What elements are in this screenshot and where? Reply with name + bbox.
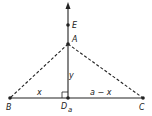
arrowhead-icon <box>66 2 71 9</box>
label-c: C <box>139 103 145 112</box>
label-x: x <box>36 88 42 97</box>
label-e: E <box>72 21 78 30</box>
point-d <box>66 96 70 100</box>
point-c <box>141 96 145 100</box>
label-b: B <box>6 103 12 112</box>
label-a-minus-x: a − x <box>90 88 112 97</box>
point-a <box>66 42 70 46</box>
label-y: y <box>68 71 74 80</box>
label-d: D <box>61 102 67 111</box>
point-b <box>8 96 12 100</box>
label-a: A <box>71 35 77 44</box>
label-d-subscript: a <box>68 106 72 114</box>
point-e <box>66 23 70 27</box>
geometry-diagram: E A y x a − x B D a C <box>0 0 152 116</box>
